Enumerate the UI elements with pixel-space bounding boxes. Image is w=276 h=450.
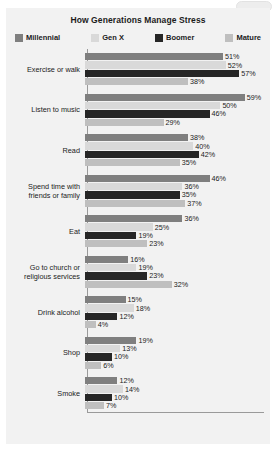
bar xyxy=(85,256,128,263)
bar-group: Read38%40%42%35% xyxy=(6,130,270,171)
category-label: Listen to music xyxy=(6,105,84,114)
legend-label: Millennial xyxy=(26,33,60,42)
bar-group: Exercise or walk51%52%57%38% xyxy=(6,49,270,90)
bar xyxy=(85,394,112,401)
bar-row: 12% xyxy=(85,377,270,384)
bar-row: 38% xyxy=(85,134,270,141)
bar-stack: 16%19%23%32% xyxy=(84,252,270,293)
bar-row: 35% xyxy=(85,159,270,166)
bar xyxy=(85,232,136,239)
bar-row: 32% xyxy=(85,281,270,288)
bar-groups: Exercise or walk51%52%57%38%Listen to mu… xyxy=(6,49,270,414)
bar-row: 52% xyxy=(85,61,270,68)
bar xyxy=(85,240,147,247)
legend-swatch-icon xyxy=(15,34,23,42)
bar-value-label: 37% xyxy=(185,199,201,208)
chart-panel: How Generations Manage Stress Millennial… xyxy=(6,8,270,444)
category-label-line: Go to church or xyxy=(6,263,80,272)
bar-value-label: 59% xyxy=(245,93,261,102)
bar-value-label: 23% xyxy=(147,271,163,280)
bar xyxy=(85,345,120,352)
bar xyxy=(85,353,112,360)
bar-row: 23% xyxy=(85,240,270,247)
bar-row: 19% xyxy=(85,337,270,344)
bar xyxy=(85,53,223,60)
category-label-line: Listen to music xyxy=(6,105,80,114)
bar xyxy=(85,296,126,303)
legend-item-mature: Mature xyxy=(225,33,261,42)
bar-value-label: 29% xyxy=(164,118,180,127)
bar-value-label: 18% xyxy=(134,304,150,313)
bar-row: 46% xyxy=(85,175,270,182)
category-label: Exercise or walk xyxy=(6,65,84,74)
bar-row: 36% xyxy=(85,183,270,190)
bar-value-label: 10% xyxy=(112,352,128,361)
bar-row: 36% xyxy=(85,215,270,222)
bar-stack: 12%14%10%7% xyxy=(84,373,270,414)
bar xyxy=(85,385,123,392)
bar-row: 50% xyxy=(85,102,270,109)
bar-group: Listen to music59%50%46%29% xyxy=(6,90,270,131)
legend-item-boomer: Boomer xyxy=(155,33,194,42)
category-label-line: religious services xyxy=(6,272,80,281)
category-label-line: Exercise or walk xyxy=(6,65,80,74)
bar-row: 38% xyxy=(85,78,270,85)
bar xyxy=(85,191,180,198)
category-label-line: Smoke xyxy=(6,389,80,398)
bar xyxy=(85,151,199,158)
bar xyxy=(85,134,188,141)
chart-title: How Generations Manage Stress xyxy=(6,8,270,25)
bar-row: 4% xyxy=(85,321,270,328)
category-label-line: Shop xyxy=(6,348,80,357)
bar-row: 59% xyxy=(85,94,270,101)
bar xyxy=(85,110,210,117)
bar xyxy=(85,78,188,85)
bar-value-label: 32% xyxy=(172,280,188,289)
bar xyxy=(85,281,172,288)
bar xyxy=(85,175,210,182)
bar-value-label: 7% xyxy=(104,401,116,410)
legend-swatch-icon xyxy=(91,34,99,42)
legend-swatch-icon xyxy=(225,34,233,42)
bar xyxy=(85,313,117,320)
bar-row: 19% xyxy=(85,264,270,271)
bar xyxy=(85,362,101,369)
bar xyxy=(85,183,182,190)
bar-group: Eat36%25%19%23% xyxy=(6,211,270,252)
bar-row: 7% xyxy=(85,402,270,409)
bar-group: Shop19%13%10%6% xyxy=(6,333,270,374)
bar-value-label: 19% xyxy=(136,336,152,345)
legend-label: Gen X xyxy=(102,33,124,42)
bar-row: 57% xyxy=(85,70,270,77)
bar xyxy=(85,142,193,149)
bar-row: 10% xyxy=(85,353,270,360)
bar xyxy=(85,402,104,409)
bar-value-label: 57% xyxy=(239,69,255,78)
chart-legend: MillennialGen XBoomerMature xyxy=(6,25,270,42)
category-label: Spend time withfriends or family xyxy=(6,182,84,200)
bar-value-label: 46% xyxy=(210,174,226,183)
legend-item-gen-x: Gen X xyxy=(91,33,124,42)
bar xyxy=(85,70,239,77)
bar-row: 15% xyxy=(85,296,270,303)
bar-value-label: 36% xyxy=(182,214,198,223)
bar xyxy=(85,223,153,230)
bar-value-label: 25% xyxy=(153,223,169,232)
bar-row: 51% xyxy=(85,53,270,60)
plot-area: Exercise or walk51%52%57%38%Listen to mu… xyxy=(6,49,270,421)
category-label: Smoke xyxy=(6,389,84,398)
bar-row: 10% xyxy=(85,394,270,401)
bar-group: Drink alcohol15%18%12%4% xyxy=(6,292,270,333)
bar-stack: 19%13%10%6% xyxy=(84,333,270,374)
bar-group: Spend time withfriends or family46%36%35… xyxy=(6,171,270,212)
bar xyxy=(85,94,245,101)
legend-label: Boomer xyxy=(166,33,194,42)
category-label: Eat xyxy=(6,227,84,236)
bar-stack: 15%18%12%4% xyxy=(84,292,270,333)
bar xyxy=(85,304,134,311)
bar xyxy=(85,119,164,126)
bar xyxy=(85,264,136,271)
bar-group: Go to church orreligious services16%19%2… xyxy=(6,252,270,293)
bar xyxy=(85,337,136,344)
bar-value-label: 42% xyxy=(199,150,215,159)
